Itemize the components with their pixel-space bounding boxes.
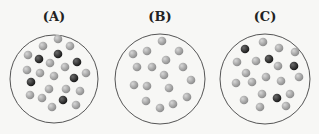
light-particle bbox=[165, 84, 174, 93]
light-particle bbox=[72, 101, 81, 110]
light-particle bbox=[183, 93, 192, 102]
light-particle bbox=[256, 103, 265, 112]
light-particle bbox=[158, 37, 167, 46]
light-particle bbox=[262, 73, 271, 82]
dark-particle bbox=[35, 55, 44, 64]
light-particle bbox=[286, 90, 295, 99]
light-particle bbox=[62, 85, 71, 94]
light-particle bbox=[39, 42, 48, 51]
light-particle bbox=[142, 97, 151, 106]
light-particle bbox=[148, 63, 157, 72]
dark-particle bbox=[54, 50, 63, 59]
light-particle bbox=[54, 35, 63, 44]
dark-particle bbox=[73, 58, 82, 67]
light-particle bbox=[26, 91, 35, 100]
light-particle bbox=[50, 72, 59, 81]
light-particle bbox=[248, 78, 257, 87]
light-particle bbox=[175, 47, 184, 56]
light-particle bbox=[187, 76, 196, 85]
light-particle bbox=[23, 66, 32, 75]
dark-particle bbox=[290, 62, 299, 71]
light-particle bbox=[275, 44, 284, 53]
light-particle bbox=[48, 103, 57, 112]
light-particle bbox=[129, 50, 138, 59]
light-particle bbox=[45, 85, 54, 94]
light-particle bbox=[252, 57, 261, 66]
light-particle bbox=[162, 56, 171, 65]
light-particle bbox=[130, 81, 139, 90]
panel-a bbox=[10, 35, 98, 123]
light-particle bbox=[274, 62, 283, 71]
dark-particle bbox=[27, 78, 36, 87]
panel-b bbox=[115, 34, 205, 124]
light-particle bbox=[160, 71, 169, 80]
light-particle bbox=[156, 104, 165, 113]
light-particle bbox=[240, 96, 249, 105]
panel-c bbox=[220, 34, 310, 124]
light-particle bbox=[36, 69, 45, 78]
light-particle bbox=[82, 69, 91, 78]
light-particle bbox=[259, 38, 268, 47]
light-particle bbox=[61, 63, 70, 72]
light-particle bbox=[233, 58, 242, 67]
light-particle bbox=[66, 42, 75, 51]
light-particle bbox=[295, 73, 304, 82]
light-particle bbox=[46, 59, 55, 68]
light-particle bbox=[258, 90, 267, 99]
dark-particle bbox=[265, 55, 274, 64]
panel-c-label: (C) bbox=[254, 9, 277, 24]
light-particle bbox=[169, 100, 178, 109]
light-particle bbox=[133, 63, 142, 72]
particle-diagram: (A) (B) (C) bbox=[0, 0, 319, 134]
dark-particle bbox=[70, 74, 79, 83]
light-particle bbox=[232, 79, 241, 88]
light-particle bbox=[38, 94, 47, 103]
dark-particle bbox=[59, 96, 68, 105]
light-particle bbox=[76, 87, 85, 96]
light-particle bbox=[143, 47, 152, 56]
light-particle bbox=[143, 82, 152, 91]
dark-particle bbox=[273, 94, 282, 103]
light-particle bbox=[291, 48, 300, 57]
light-particle bbox=[179, 63, 188, 72]
panel-b-label: (B) bbox=[148, 9, 171, 24]
panel-a-label: (A) bbox=[43, 9, 65, 24]
light-particle bbox=[277, 77, 286, 86]
light-particle bbox=[282, 102, 291, 111]
light-particle bbox=[24, 51, 33, 60]
dark-particle bbox=[241, 45, 250, 54]
light-particle bbox=[242, 69, 251, 78]
